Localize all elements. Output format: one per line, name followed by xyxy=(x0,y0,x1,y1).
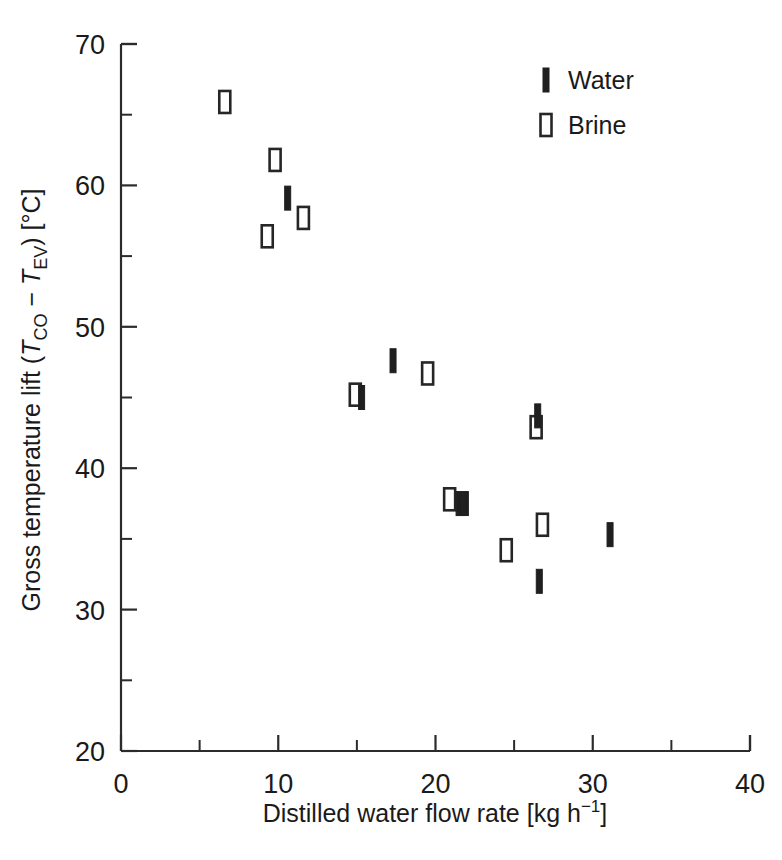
series-water-markers xyxy=(285,186,613,593)
y-axis-title-tco-subscript: CO xyxy=(31,314,51,341)
x-tick-label: 20 xyxy=(420,769,450,799)
x-axis-title: Distilled water flow rate [kg h−1] xyxy=(263,797,608,827)
data-point-brine xyxy=(262,225,273,247)
x-axis-title-tail: ] xyxy=(600,799,607,827)
x-axis-title-main: Distilled water flow rate [kg h xyxy=(263,799,581,827)
y-tick-label: 40 xyxy=(75,454,105,484)
data-point-brine xyxy=(541,114,552,136)
y-tick-label: 70 xyxy=(75,30,105,60)
series-brine-markers xyxy=(219,91,548,561)
x-tick-label: 0 xyxy=(113,769,128,799)
data-point-brine xyxy=(537,514,548,536)
data-point-brine xyxy=(422,362,433,384)
data-point-brine xyxy=(270,149,281,171)
y-tick-label: 30 xyxy=(75,596,105,626)
y-axis-title-part1: Gross temperature lift ( xyxy=(17,355,45,611)
data-point-brine xyxy=(501,539,512,561)
legend: WaterBrine xyxy=(541,66,634,139)
x-tick-label: 40 xyxy=(735,769,765,799)
plot-canvas: 203040506070 010203040 Distilled water f… xyxy=(0,0,782,860)
figure-scatter-plot: 203040506070 010203040 Distilled water f… xyxy=(0,0,782,860)
data-point-water xyxy=(456,492,462,516)
svg-text:Distilled water flow rate [kg: Distilled water flow rate [kg h−1] xyxy=(263,797,608,827)
y-axis-title-part2: ) [°C] xyxy=(17,189,45,246)
y-tick-label: 60 xyxy=(75,171,105,201)
y-axis-title-operator: − xyxy=(17,285,45,314)
legend-label-brine: Brine xyxy=(568,111,626,139)
data-point-water xyxy=(543,68,549,92)
legend-label-water: Water xyxy=(568,66,634,94)
y-tick-label: 50 xyxy=(75,313,105,343)
y-axis-title: Gross temperature lift (TCO − TEV) [°C] xyxy=(17,189,51,612)
x-axis-title-superscript: −1 xyxy=(581,797,600,816)
data-point-water xyxy=(535,404,541,428)
data-point-brine xyxy=(298,207,309,229)
data-point-brine xyxy=(444,488,455,510)
data-point-water xyxy=(462,492,468,516)
svg-text:Gross temperature lift (TCO −: Gross temperature lift (TCO − TEV) [°C] xyxy=(17,189,51,612)
y-tick-label: 20 xyxy=(75,737,105,767)
data-point-water xyxy=(390,349,396,373)
data-point-water xyxy=(536,569,542,593)
y-axis-minor-ticks xyxy=(121,115,132,681)
y-axis-tick-labels: 203040506070 xyxy=(75,30,105,767)
data-point-water xyxy=(607,523,613,547)
data-point-water xyxy=(359,386,365,410)
y-axis-title-tev-subscript: EV xyxy=(31,246,51,270)
data-point-brine xyxy=(219,91,230,113)
x-tick-label: 30 xyxy=(578,769,608,799)
x-tick-label: 10 xyxy=(263,769,293,799)
x-axis-tick-labels: 010203040 xyxy=(113,769,765,799)
data-point-water xyxy=(285,186,291,210)
x-axis-major-ticks xyxy=(121,735,750,751)
